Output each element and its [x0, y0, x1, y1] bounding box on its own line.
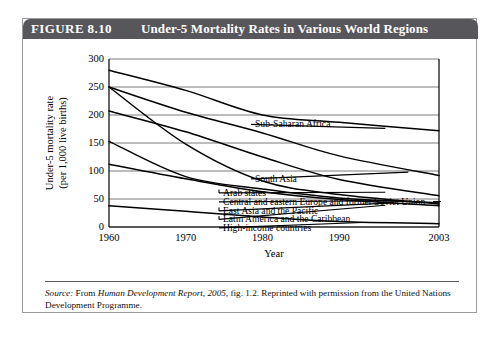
y-tick-label: 250 [88, 81, 104, 92]
figure-number: FIGURE 8.10 [31, 21, 112, 37]
figure-title-bar: FIGURE 8.10 Under-5 Mortality Rates in V… [23, 19, 478, 39]
x-tick-label: 1980 [252, 232, 273, 243]
x-tick-label: 1970 [175, 232, 196, 243]
y-tick-label: 150 [88, 137, 104, 148]
x-axis-title: Year [264, 248, 284, 259]
y-tick-label: 0 [99, 221, 104, 232]
series-label: Sub-Saharan Africa [255, 118, 331, 129]
figure-box: FIGURE 8.10 Under-5 Mortality Rates in V… [22, 18, 477, 313]
x-tick-label: 1960 [99, 232, 120, 243]
mortality-line-chart: 05010015020025030019601970198019902003Ye… [23, 39, 478, 267]
source-text-1: From [73, 288, 98, 298]
y-tick-label: 100 [88, 165, 104, 176]
y-tick-label: 200 [88, 109, 104, 120]
x-tick-label: 2003 [429, 232, 450, 243]
y-axis-title: Under-5 mortality rate [44, 96, 55, 191]
series-label: South Asia [255, 173, 298, 184]
chart-area: 05010015020025030019601970198019902003Ye… [23, 39, 478, 267]
x-tick-label: 1990 [329, 232, 350, 243]
series-line [109, 87, 439, 175]
y-tick-label: 300 [88, 53, 104, 64]
source-publication: Human Development Report, 2005, [98, 288, 228, 298]
series-label: High-income countries [223, 222, 311, 233]
figure-page: FIGURE 8.10 Under-5 Mortality Rates in V… [0, 0, 501, 337]
y-tick-label: 50 [94, 193, 105, 204]
y-axis-title: (per 1,000 live births) [57, 97, 69, 189]
source-label: Source: [45, 288, 73, 298]
source-note: Source: From Human Development Report, 2… [45, 281, 459, 312]
series-line [109, 87, 439, 204]
figure-title: Under-5 Mortality Rates in Various World… [141, 21, 428, 37]
